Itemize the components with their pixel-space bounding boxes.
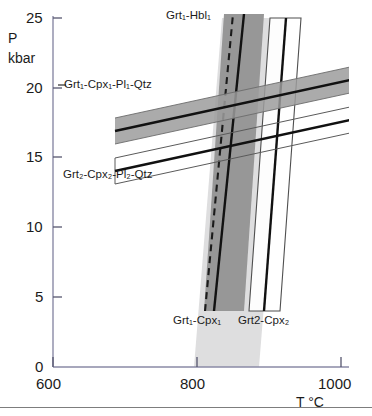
x-tick-800: 800 — [180, 375, 205, 392]
annotation-grt1-cpx1-pl1-qtz: Grt₁-Cpx₁-Pl₁-Qtz — [64, 78, 152, 90]
annotation-grt1-cpx1: Grt₁-Cpx₁ — [173, 314, 221, 326]
pt-diagram-plot — [0, 0, 372, 416]
annotation-grt2-cpx2: Grt2-Cpx₂ — [238, 314, 289, 326]
page-rule — [0, 407, 372, 408]
y-tick-25: 25 — [26, 9, 43, 26]
x-tick-1000: 1000 — [318, 375, 351, 392]
y-axis-label-line1: P — [8, 30, 17, 46]
y-tick-5: 5 — [35, 288, 43, 305]
x-axis-ticks — [53, 357, 341, 367]
y-axis-ticks — [53, 18, 62, 297]
y-tick-0: 0 — [35, 358, 43, 375]
y-tick-10: 10 — [26, 218, 43, 235]
x-tick-600: 600 — [36, 375, 61, 392]
y-tick-20: 20 — [26, 79, 43, 96]
y-axis-label-line2: kbar — [8, 50, 35, 66]
annotation-grt2-cpx2-pl2-qtz: Grt₂-Cpx₂-Pl₂-Qtz — [63, 168, 152, 180]
y-tick-15: 15 — [26, 148, 43, 165]
figure-canvas: P kbar 25 20 15 10 5 0 600 800 1000 T °C… — [0, 0, 372, 416]
annotation-grt1-hbl1: Grt₁-Hbl₁ — [166, 9, 211, 21]
